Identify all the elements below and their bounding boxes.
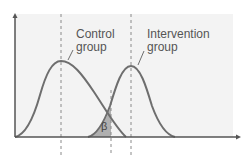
intervention-label-line2: group (147, 41, 210, 54)
x-axis-arrow-icon (236, 135, 241, 140)
control-label-line2: group (76, 41, 115, 54)
intervention-group-label: Intervention group (147, 28, 210, 54)
chart-canvas (0, 0, 247, 161)
beta-label: β (101, 120, 107, 133)
control-group-label: Control group (76, 28, 115, 54)
